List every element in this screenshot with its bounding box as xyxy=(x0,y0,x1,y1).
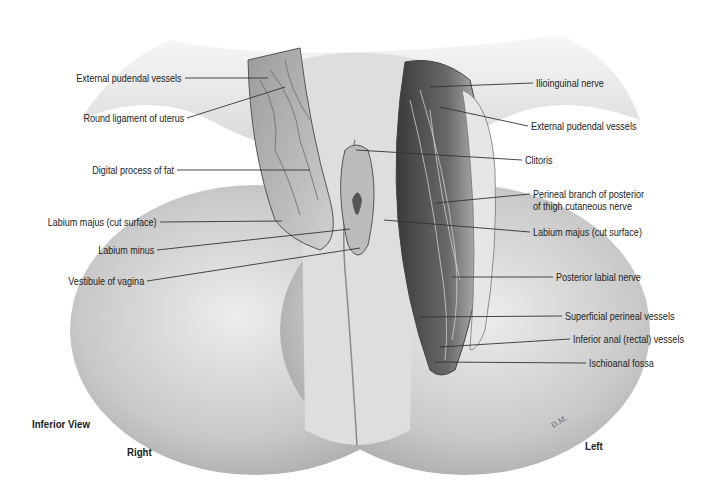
orientation-right-label: Right xyxy=(127,446,152,458)
anatomy-label: Labium majus (cut surface) xyxy=(48,216,157,228)
anatomy-label-line: Labium majus (cut surface) xyxy=(533,226,642,238)
anatomy-label: Round ligament of uterus xyxy=(83,112,184,124)
anatomy-label-line: Inferior anal (rectal) vessels xyxy=(573,333,684,345)
anatomy-label-line: Perineal branch of posterior xyxy=(533,188,644,200)
anatomy-label: Inferior anal (rectal) vessels xyxy=(573,333,684,345)
anatomy-label: Digital process of fat xyxy=(92,164,174,176)
anatomy-label-line: Posterior labial nerve xyxy=(556,271,641,283)
anatomy-label: Labium minus xyxy=(98,244,154,256)
anatomy-label-line: Ischioanal fossa xyxy=(589,357,654,369)
anatomy-label-line: Superficial perineal vessels xyxy=(565,310,674,322)
anatomy-label: Ischioanal fossa xyxy=(589,357,654,369)
anatomy-label-line: of thigh cutaneous nerve xyxy=(533,200,644,212)
orientation-left-label: Left xyxy=(585,440,603,452)
view-caption: Inferior View xyxy=(32,418,90,430)
anatomical-illustration: D.M. External pudendal vesselsRound liga… xyxy=(0,0,708,491)
anatomy-label: External pudendal vessels xyxy=(77,72,182,84)
anatomy-label: External pudendal vessels xyxy=(531,120,636,132)
anatomy-label-line: External pudendal vessels xyxy=(531,120,636,132)
anatomy-label-line: Clitoris xyxy=(525,154,553,166)
anatomy-label: Ilioinguinal nerve xyxy=(536,77,604,89)
anatomy-label: Superficial perineal vessels xyxy=(565,310,674,322)
anatomy-label: Labium majus (cut surface) xyxy=(533,226,642,238)
anatomy-label: Perineal branch of posteriorof thigh cut… xyxy=(533,188,644,212)
anatomy-label: Clitoris xyxy=(525,154,553,166)
anatomy-label-line: Ilioinguinal nerve xyxy=(536,77,604,89)
anatomy-label: Posterior labial nerve xyxy=(556,271,641,283)
anatomy-label: Vestibule of vagina xyxy=(68,275,144,287)
